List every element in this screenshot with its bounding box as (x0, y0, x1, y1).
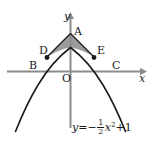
equation-fraction: 1 2 (97, 119, 104, 137)
fraction-numerator: 1 (97, 119, 104, 127)
point-label-d: D (39, 45, 48, 56)
point-e-marker (92, 55, 97, 60)
x-axis-label: x (139, 73, 145, 84)
point-label-b: B (29, 60, 37, 71)
equation-plus-term: +1 (115, 122, 131, 133)
fraction-denominator: 2 (97, 127, 104, 136)
point-label-c: C (112, 60, 120, 71)
point-label-a: A (74, 26, 82, 37)
origin-label: O (62, 73, 71, 84)
point-label-e: E (97, 45, 105, 56)
equation-equals: = (78, 122, 87, 133)
equation-minus: − (87, 122, 96, 133)
y-axis-label: y (64, 11, 70, 22)
equation-label: y = − 1 2 x 2 +1 (72, 119, 132, 137)
parabola-geometry-figure: y x O A B C D E y = − 1 2 x 2 +1 (0, 0, 155, 146)
